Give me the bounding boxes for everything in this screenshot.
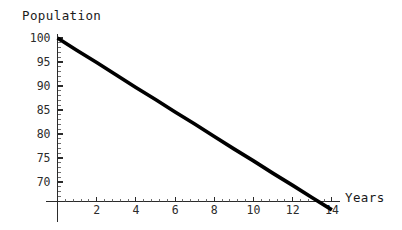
y-tick-label: 75 <box>37 151 51 165</box>
x-tick-label: 12 <box>286 203 300 217</box>
y-tick-label: 85 <box>37 103 51 117</box>
y-tick-label: 70 <box>37 175 51 189</box>
series-line-population <box>58 38 332 210</box>
x-tick-label: 8 <box>211 203 218 217</box>
y-tick-label: 95 <box>37 55 51 69</box>
x-axis-tick-labels: 2468101214 <box>93 203 339 217</box>
x-tick-label: 6 <box>172 203 179 217</box>
axis-lines <box>46 34 340 222</box>
x-axis-major-ticks <box>97 197 332 202</box>
y-tick-label: 80 <box>37 127 51 141</box>
data-series-population <box>58 38 332 210</box>
plot-canvas: Population Years 707580859095100 2468101… <box>0 0 402 230</box>
population-decline-chart: Population Years 707580859095100 2468101… <box>0 0 402 230</box>
x-tick-label: 4 <box>132 203 139 217</box>
x-tick-label: 2 <box>93 203 100 217</box>
y-axis-major-ticks <box>58 38 63 182</box>
y-axis-tick-labels: 707580859095100 <box>30 31 51 189</box>
y-tick-label: 90 <box>37 79 51 93</box>
x-axis-label: Years <box>345 190 385 205</box>
y-tick-label: 100 <box>30 31 51 45</box>
y-axis-label: Population <box>22 8 101 23</box>
x-tick-label: 10 <box>247 203 261 217</box>
